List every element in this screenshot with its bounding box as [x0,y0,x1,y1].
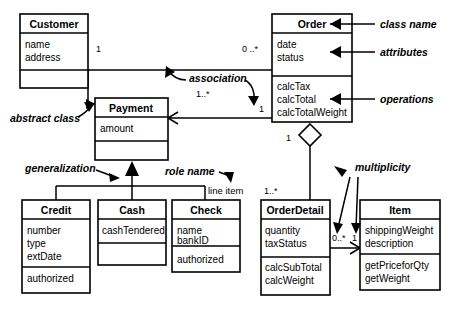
multiplicity-item-orderdetail: 1 [352,233,357,243]
multiplicity-order-aggregation: 1 [286,133,291,143]
operation-order-2: calcTotalWeight [277,107,347,118]
attribute-orderdetail-0: quantity [265,225,300,236]
class-box-orderdetail[interactable]: OrderDetail quantity taxStatus calcSubTo… [261,200,330,295]
class-box-item[interactable]: Item shippingWeight description getPrice… [360,200,440,290]
attribute-order-1: status [277,52,304,63]
class-name-payment: Payment [109,102,153,114]
annotation-generalization: generalization [24,162,96,174]
generalization-triangle [125,161,139,176]
arrowhead-association-right [248,96,259,106]
attribute-credit-2: extDate [27,251,62,262]
arrowhead-multiplicity-pointer [334,166,347,177]
attribute-check-1: bankID [177,235,209,246]
annotation-abstract-class: abstract class [10,112,80,124]
attribute-payment-0: amount [100,123,134,134]
attribute-customer-1: address [25,52,61,63]
attribute-customer-0: name [25,39,50,50]
attribute-order-0: date [277,39,297,50]
annotation-association: association [189,72,247,84]
class-box-payment[interactable]: Payment amount [95,98,168,160]
class-name-order: Order [298,18,327,30]
attribute-credit-0: number [27,225,62,236]
attribute-item-1: description [365,238,413,249]
callout-line-multiplicity-a [338,177,350,228]
role-label-line-item: line item [208,185,243,196]
class-box-check[interactable]: Check name bankID authorized [172,200,240,272]
annotation-attributes: attributes [380,46,428,58]
operation-item-1: getWeight [365,273,410,284]
annotation-multiplicity: multiplicity [355,161,412,173]
operation-order-1: calcTotal [277,94,316,105]
class-name-credit: Credit [41,204,72,216]
attribute-credit-1: type [27,238,46,249]
class-name-item: Item [389,204,411,216]
operation-item-0: getPriceforQty [365,260,429,271]
multiplicity-order-customer: 0 ..* [242,44,259,54]
callout-line-multiplicity-b [356,177,358,228]
multiplicity-order-payment: 1 [259,104,264,114]
annotation-role-name: role name [165,165,215,177]
multiplicity-payment-customer: 1..* [196,89,210,99]
class-box-order[interactable]: Order date status calcTax calcTotal calc… [272,14,352,122]
attribute-orderdetail-1: taxStatus [265,238,307,249]
arrowhead-abstract-class [84,102,95,112]
attribute-item-0: shippingWeight [365,225,433,236]
operation-check-0: authorized [177,254,224,265]
multiplicity-orderdetail-item: 0..* [332,233,346,243]
operation-orderdetail-0: calcSubTotal [265,262,322,273]
annotation-class-name: class name [380,18,437,30]
class-name-cash: Cash [119,204,145,216]
class-box-cash[interactable]: Cash cashTendered [98,200,166,265]
annotation-operations: operations [380,93,434,105]
operation-orderdetail-1: calcWeight [265,275,314,286]
uml-class-diagram: Customer name address Order date status … [0,0,458,315]
attribute-cash-0: cashTendered [102,225,165,236]
diagram-canvas: Customer name address Order date status … [0,0,458,315]
class-name-orderdetail: OrderDetail [266,204,323,216]
class-box-customer[interactable]: Customer name address [20,14,88,88]
class-name-check: Check [190,204,222,216]
class-box-credit[interactable]: Credit number type extDate authorized [22,200,90,293]
multiplicity-customer-order: 1 [96,44,101,54]
arrowhead-generalization [109,173,120,182]
operation-order-0: calcTax [277,81,310,92]
arrowhead-role-name [224,172,234,183]
association-customer-payment [88,70,95,104]
class-name-customer: Customer [29,18,78,30]
multiplicity-orderdetail-order: 1..* [264,186,278,196]
aggregation-diamond [299,124,321,146]
operation-credit-0: authorized [27,273,74,284]
